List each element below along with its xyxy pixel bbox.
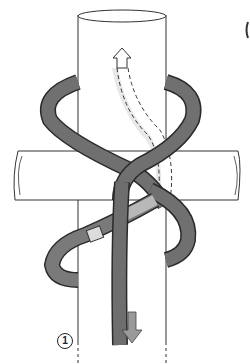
knot-diagram bbox=[0, 0, 250, 364]
arrow-up-icon bbox=[113, 48, 131, 68]
rope bbox=[48, 82, 194, 345]
next-panel-edge bbox=[247, 22, 249, 38]
step-number-label: 1 bbox=[57, 333, 73, 349]
